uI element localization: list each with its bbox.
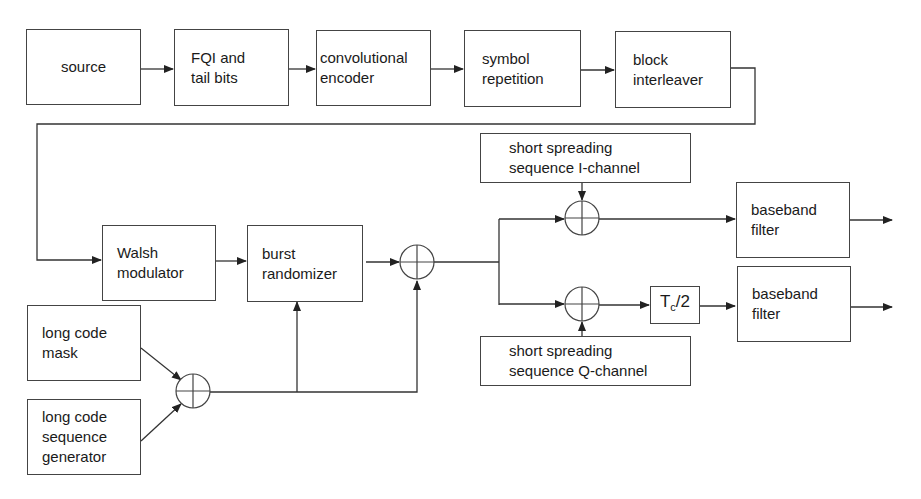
xor-scramble-icon [400, 245, 434, 279]
long-code-mask-block: long code mask [27, 305, 141, 381]
xor-longcode-icon [176, 374, 210, 408]
lcmask-label: long code mask [42, 323, 107, 363]
walsh-label: Walsh modulator [117, 243, 184, 283]
symrep-label: symbol repetition [482, 49, 544, 89]
conv-label: convolutional encoder [320, 48, 408, 88]
source-block: source [26, 29, 141, 105]
i-channel-sequence-block: short spreading sequence I-channel [480, 133, 691, 183]
burst-randomizer-block: burst randomizer [247, 225, 363, 302]
bbf-q-label: baseband filter [752, 284, 818, 324]
block-interleaver-block: block interleaver [615, 31, 731, 108]
baseband-filter-q-block: baseband filter [737, 266, 851, 342]
delay-label: Tc/2 [660, 292, 690, 317]
half-chip-delay-block: Tc/2 [650, 286, 700, 324]
fqi-tail-bits-block: FQI and tail bits [174, 29, 289, 106]
burst-label: burst randomizer [262, 244, 337, 284]
ich-label: short spreading sequence I-channel [509, 138, 640, 178]
fqi-label: FQI and tail bits [191, 48, 245, 88]
interleaver-label: block interleaver [633, 50, 703, 90]
source-label: source [61, 57, 106, 77]
convolutional-encoder-block: convolutional encoder [316, 30, 431, 106]
xor-q-icon [565, 287, 599, 321]
bbf-i-label: baseband filter [751, 200, 817, 240]
lcgen-label: long code sequence generator [42, 407, 107, 467]
xor-i-icon [565, 201, 599, 235]
baseband-filter-i-block: baseband filter [736, 182, 850, 258]
walsh-modulator-block: Walsh modulator [102, 225, 216, 301]
symbol-repetition-block: symbol repetition [464, 30, 581, 107]
qch-label: short spreading sequence Q-channel [509, 341, 647, 381]
q-channel-sequence-block: short spreading sequence Q-channel [480, 336, 691, 386]
long-code-generator-block: long code sequence generator [27, 399, 141, 475]
